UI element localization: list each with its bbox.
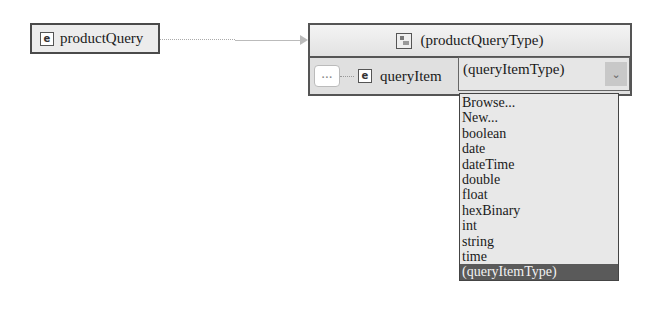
chevron-down-icon[interactable]: ⌄ — [605, 62, 627, 86]
dropdown-option-new[interactable]: New... — [460, 110, 618, 125]
sequence-connector-line — [340, 76, 354, 77]
connector-line — [235, 40, 303, 41]
type-dropdown-list[interactable]: Browse... New... boolean date dateTime d… — [459, 93, 619, 281]
element-icon: e — [40, 32, 54, 46]
sequence-icon: ∙∙∙ — [314, 65, 340, 87]
connector-arrow-icon — [300, 35, 308, 45]
type-header[interactable]: (productQueryType) — [310, 25, 630, 58]
query-item-element[interactable]: e queryItem — [358, 68, 442, 85]
element-name: queryItem — [380, 68, 442, 85]
element-name: productQuery — [60, 30, 143, 47]
dropdown-option-float[interactable]: float — [460, 187, 618, 202]
dropdown-option-datetime[interactable]: dateTime — [460, 157, 618, 172]
type-title: (productQueryType) — [420, 32, 543, 49]
complex-type-icon — [396, 33, 412, 49]
connector-dotted-line — [160, 39, 235, 40]
dropdown-option-browse[interactable]: Browse... — [460, 95, 618, 110]
product-query-element[interactable]: e productQuery — [30, 23, 160, 54]
query-item-row[interactable]: ∙∙∙ e queryItem (queryItemType) ⌄ — [310, 58, 630, 94]
type-select[interactable]: (queryItemType) ⌄ — [458, 57, 630, 91]
dropdown-option-string[interactable]: string — [460, 234, 618, 249]
dropdown-option-date[interactable]: date — [460, 141, 618, 156]
dropdown-option-query-item-type[interactable]: (queryItemType) — [460, 264, 618, 279]
dropdown-option-time[interactable]: time — [460, 249, 618, 264]
dropdown-option-boolean[interactable]: boolean — [460, 126, 618, 141]
dropdown-option-double[interactable]: double — [460, 172, 618, 187]
element-icon: e — [358, 69, 372, 83]
dropdown-option-hexbinary[interactable]: hexBinary — [460, 203, 618, 218]
complex-type-box: (productQueryType) ∙∙∙ e queryItem (quer… — [308, 23, 632, 96]
type-select-value: (queryItemType) — [463, 61, 564, 77]
dropdown-option-int[interactable]: int — [460, 218, 618, 233]
